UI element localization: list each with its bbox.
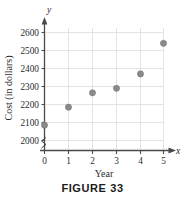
figure-caption: FIGURE 33 <box>0 182 185 194</box>
x-tick-label: 3 <box>114 156 119 166</box>
gridlines-vertical <box>45 28 164 150</box>
x-axis-title: Year <box>95 168 114 179</box>
data-point <box>113 85 119 91</box>
x-tick-label: 1 <box>66 156 71 166</box>
data-point <box>41 122 47 128</box>
y-axis <box>42 17 48 150</box>
y-tick-label: 2300 <box>20 82 39 92</box>
figure-container: 2000 2100 2200 2300 2400 2500 2600 0 1 2… <box>0 0 185 205</box>
x-axis-name: x <box>175 146 181 156</box>
data-points <box>41 40 166 128</box>
gridlines-horizontal <box>44 33 163 141</box>
y-tick-labels: 2000 2100 2200 2300 2400 2500 2600 <box>20 28 39 146</box>
y-tick-label: 2100 <box>20 118 39 128</box>
data-point <box>137 71 143 77</box>
y-axis-break-icon <box>42 138 47 149</box>
y-tick-label: 2400 <box>20 64 39 74</box>
x-axis <box>40 148 176 154</box>
x-tick-label: 2 <box>90 156 95 166</box>
x-tick-labels: 0 1 2 3 4 5 <box>42 156 166 166</box>
data-point <box>89 90 95 96</box>
data-point <box>65 104 71 110</box>
x-tick-label: 4 <box>138 156 143 166</box>
y-tick-label: 2200 <box>20 100 39 110</box>
y-tick-label: 2000 <box>20 136 39 146</box>
x-tick-label: 5 <box>161 156 166 166</box>
data-point <box>160 40 166 46</box>
y-tick-label: 2600 <box>20 28 39 38</box>
y-axis-name: y <box>46 5 52 15</box>
scatter-plot: 2000 2100 2200 2300 2400 2500 2600 0 1 2… <box>0 0 185 205</box>
y-axis-title: Cost (in dollars) <box>3 56 15 121</box>
y-tick-label: 2500 <box>20 46 39 56</box>
x-tick-label: 0 <box>42 156 47 166</box>
